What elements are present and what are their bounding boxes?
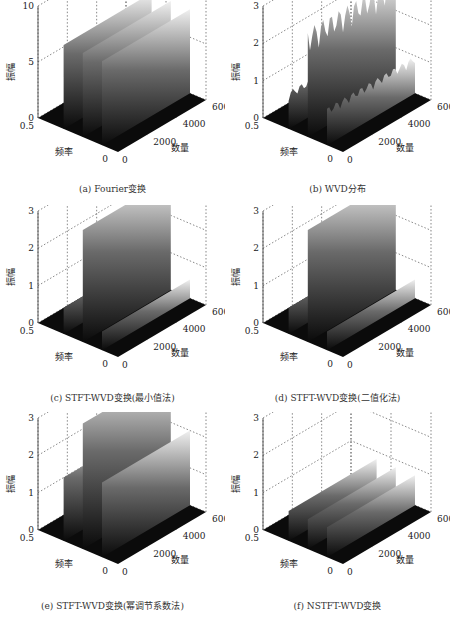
x-axis-label: 数量 — [171, 347, 189, 358]
x-tick-label: 4000 — [408, 531, 431, 541]
z-axis-label: 振幅 — [230, 268, 241, 286]
chart-f: 01230.500200040006000振幅频率数量 — [225, 412, 450, 592]
y-axis-label: 频率 — [280, 146, 298, 157]
chart-d: 01230.500200040006000振幅频率数量 — [225, 205, 450, 385]
caption-d: (d) STFT-WVD变换(二值化法) — [225, 391, 450, 404]
z-tick-label: 1 — [253, 281, 259, 291]
y-axis-label: 频率 — [55, 146, 73, 157]
z-tick-label: 10 — [23, 1, 35, 11]
y-tick-label: 0 — [327, 359, 333, 369]
x-tick-label: 6000 — [212, 102, 225, 112]
subplot-f: 01230.500200040006000振幅频率数量 (f) NSTFT-WV… — [225, 412, 450, 621]
gridline-z — [263, 412, 431, 418]
z-axis-label: 振幅 — [5, 63, 16, 81]
z-tick-label: 3 — [28, 206, 34, 216]
y-tick-label: 0 — [102, 566, 108, 576]
x-tick-label: 4000 — [183, 119, 206, 129]
subplot-b: 01230.500200040006000振幅频率数量 (b) WVD分布 — [225, 0, 450, 200]
x-tick-label: 0 — [122, 360, 128, 370]
x-tick-label: 6000 — [437, 307, 450, 317]
z-tick-label: 2 — [253, 38, 259, 48]
z-tick-label: 2 — [28, 450, 34, 460]
subplot-d: 01230.500200040006000振幅频率数量 (d) STFT-WVD… — [225, 205, 450, 410]
caption-b: (b) WVD分布 — [225, 182, 450, 195]
x-tick-label: 6000 — [212, 307, 225, 317]
x-axis-label: 数量 — [396, 347, 414, 358]
y-tick-label: 0 — [102, 154, 108, 164]
subplot-c: 01230.500200040006000振幅频率数量 (c) STFT-WVD… — [0, 205, 225, 410]
subplot-a: 05100.500200040006000振幅频率数量 (a) Fourier变… — [0, 0, 225, 200]
y-tick-label: 0.5 — [245, 533, 260, 543]
caption-a: (a) Fourier变换 — [0, 182, 225, 195]
gridline-z — [263, 412, 431, 455]
z-tick-label: 2 — [28, 243, 34, 253]
z-tick-label: 3 — [253, 413, 259, 423]
y-axis-label: 频率 — [280, 558, 298, 569]
x-tick-label: 0 — [347, 155, 353, 165]
z-tick-label: 3 — [253, 206, 259, 216]
z-axis-label: 振幅 — [5, 268, 16, 286]
y-tick-label: 0.5 — [245, 121, 260, 131]
x-axis-label: 数量 — [171, 142, 189, 153]
x-tick-label: 0 — [347, 360, 353, 370]
y-tick-label: 0 — [327, 154, 333, 164]
subplot-e: 01230.500200040006000振幅频率数量 (e) STFT-WVD… — [0, 412, 225, 621]
caption-f: (f) NSTFT-WVD变换 — [225, 599, 450, 612]
z-tick-label: 1 — [28, 488, 34, 498]
x-tick-label: 4000 — [183, 531, 206, 541]
y-tick-label: 0 — [327, 566, 333, 576]
x-axis-label: 数量 — [171, 554, 189, 565]
x-tick-label: 4000 — [408, 324, 431, 334]
z-tick-label: 3 — [253, 1, 259, 11]
y-axis-label: 频率 — [55, 351, 73, 362]
y-tick-label: 0.5 — [245, 326, 260, 336]
x-tick-label: 6000 — [437, 514, 450, 524]
z-tick-label: 1 — [253, 488, 259, 498]
x-axis-label: 数量 — [396, 554, 414, 565]
z-axis-label: 振幅 — [230, 475, 241, 493]
y-axis-label: 频率 — [55, 558, 73, 569]
caption-e: (e) STFT-WVD变换(幂调节系数法) — [0, 599, 225, 612]
chart-b: 01230.500200040006000振幅频率数量 — [225, 0, 450, 180]
x-tick-label: 0 — [122, 155, 128, 165]
z-tick-label: 3 — [28, 413, 34, 423]
z-tick-label: 5 — [28, 57, 34, 67]
x-tick-label: 4000 — [408, 119, 431, 129]
z-tick-label: 1 — [253, 76, 259, 86]
caption-c: (c) STFT-WVD变换(最小值法) — [0, 391, 225, 404]
z-axis-label: 振幅 — [230, 63, 241, 81]
z-axis-label: 振幅 — [5, 475, 16, 493]
chart-a: 05100.500200040006000振幅频率数量 — [0, 0, 225, 180]
gridline-z — [38, 0, 206, 6]
y-tick-label: 0.5 — [20, 326, 35, 336]
x-tick-label: 0 — [122, 567, 128, 577]
chart-c: 01230.500200040006000振幅频率数量 — [0, 205, 225, 385]
x-axis-label: 数量 — [396, 142, 414, 153]
gridline-z — [263, 0, 431, 6]
z-tick-label: 2 — [253, 243, 259, 253]
y-tick-label: 0.5 — [20, 121, 35, 131]
x-tick-label: 0 — [347, 567, 353, 577]
y-axis-label: 频率 — [280, 351, 298, 362]
chart-e: 01230.500200040006000振幅频率数量 — [0, 412, 225, 592]
z-tick-label: 2 — [253, 450, 259, 460]
x-tick-label: 6000 — [437, 102, 450, 112]
y-tick-label: 0 — [102, 359, 108, 369]
y-tick-label: 0.5 — [20, 533, 35, 543]
z-tick-label: 1 — [28, 281, 34, 291]
x-tick-label: 6000 — [212, 514, 225, 524]
x-tick-label: 4000 — [183, 324, 206, 334]
